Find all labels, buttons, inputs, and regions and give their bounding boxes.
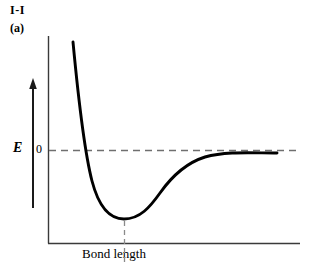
potential-energy-curve [73, 42, 277, 219]
energy-direction-arrow [29, 78, 37, 208]
potential-energy-plot [0, 0, 310, 269]
figure-container: I-I (a) E 0 Bond length [0, 0, 310, 269]
